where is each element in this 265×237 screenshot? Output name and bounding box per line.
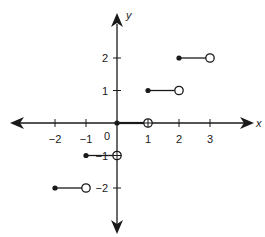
x-tick-label: −2 bbox=[49, 133, 62, 145]
y-tick-label: −2 bbox=[95, 182, 108, 194]
y-tick-label: 2 bbox=[102, 52, 108, 64]
step-segment bbox=[176, 54, 214, 62]
x-axis-label: x bbox=[255, 117, 262, 129]
x-tick-label: 1 bbox=[145, 133, 151, 145]
x-tick-label: −1 bbox=[80, 133, 93, 145]
y-axis-label: y bbox=[125, 9, 133, 21]
x-tick-label: 2 bbox=[176, 133, 182, 145]
step-segment bbox=[145, 86, 183, 94]
open-endpoint-circle bbox=[175, 86, 183, 94]
step-function-chart: −2−112321−1−2 x y 0 bbox=[0, 0, 265, 237]
closed-endpoint-dot bbox=[176, 55, 181, 60]
step-segment bbox=[114, 119, 152, 127]
closed-endpoint-dot bbox=[114, 120, 119, 125]
closed-endpoint-dot bbox=[145, 88, 150, 93]
x-tick-label: 3 bbox=[207, 133, 213, 145]
open-endpoint-circle bbox=[206, 54, 214, 62]
origin-label: 0 bbox=[104, 130, 110, 142]
y-tick-label: 1 bbox=[102, 85, 108, 97]
step-segment bbox=[52, 184, 90, 192]
closed-endpoint-dot bbox=[52, 185, 57, 190]
open-endpoint-circle bbox=[82, 184, 90, 192]
closed-endpoint-dot bbox=[83, 153, 88, 158]
